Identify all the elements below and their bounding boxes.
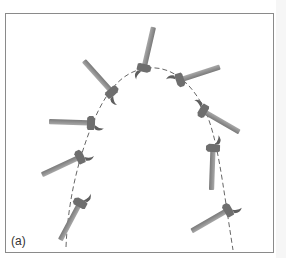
panel-label: (a) [11, 234, 26, 248]
hammer-2 [39, 145, 95, 181]
hammer-8 [205, 135, 221, 190]
hammer-3 [49, 115, 104, 131]
hammer-5 [134, 25, 160, 82]
hammer-trajectory-diagram [0, 0, 286, 258]
hammer-7 [188, 98, 243, 138]
hammer-1 [54, 188, 92, 243]
hammer-9 [188, 197, 243, 237]
hammer-6 [165, 60, 222, 91]
